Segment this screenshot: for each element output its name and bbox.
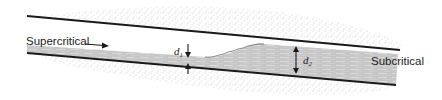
supercritical-label: Supercritical	[26, 35, 89, 47]
svg-text:d1: d1	[174, 45, 183, 59]
d1-subscript: 1	[180, 51, 184, 59]
hydraulic-jump-diagram: Supercritical d1 d2 Subcritical	[0, 0, 442, 100]
d2-subscript: 2	[309, 60, 313, 68]
subcritical-label: Subcritical	[371, 55, 424, 67]
